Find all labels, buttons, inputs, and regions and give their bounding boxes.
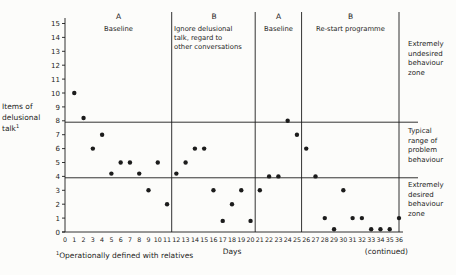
x-tick-label: 31 bbox=[349, 236, 357, 243]
data-point bbox=[91, 146, 95, 150]
data-point bbox=[100, 133, 104, 137]
x-tick-label: 6 bbox=[119, 236, 123, 243]
data-point bbox=[397, 216, 401, 220]
zone-label-line: zone bbox=[408, 210, 456, 220]
behaviour-chart-figure: 0123456789101112131415012345678910111213… bbox=[0, 0, 456, 275]
x-tick-label: 36 bbox=[395, 236, 403, 243]
x-tick-label: 0 bbox=[63, 236, 67, 243]
data-point bbox=[221, 219, 225, 223]
footnote-text: Operationally defined with relatives bbox=[59, 251, 193, 260]
x-tick-label: 28 bbox=[321, 236, 329, 243]
x-tick-label: 18 bbox=[228, 236, 236, 243]
data-point bbox=[369, 227, 373, 231]
data-point bbox=[360, 216, 364, 220]
y-tick-label: 5 bbox=[56, 159, 60, 167]
data-point bbox=[109, 171, 113, 175]
x-tick-label: 20 bbox=[247, 236, 255, 243]
y-tick-label: 10 bbox=[51, 90, 60, 98]
data-point bbox=[248, 219, 252, 223]
x-tick-label: 25 bbox=[293, 236, 301, 243]
data-point bbox=[156, 160, 160, 164]
phase-b1-letter: B bbox=[174, 12, 254, 21]
x-tick-label: 19 bbox=[237, 236, 245, 243]
zone-label-line: desired bbox=[408, 191, 456, 201]
phase-a1-label: Baseline bbox=[66, 25, 171, 34]
data-point bbox=[128, 160, 132, 164]
x-tick-label: 11 bbox=[163, 236, 171, 243]
data-point bbox=[211, 188, 215, 192]
zone-label-line: Typical bbox=[408, 127, 456, 137]
zone-label-undesired: Extremely undesired behaviour zone bbox=[408, 40, 456, 78]
data-point bbox=[183, 160, 187, 164]
y-tick-label: 2 bbox=[56, 201, 60, 209]
data-point bbox=[137, 171, 141, 175]
data-point bbox=[72, 91, 76, 95]
phase-b1-label-line: Ignore delusional bbox=[174, 25, 254, 34]
data-point bbox=[323, 216, 327, 220]
zone-label-line: range of bbox=[408, 137, 456, 147]
x-tick-label: 1 bbox=[72, 236, 76, 243]
x-tick-label: 14 bbox=[191, 236, 199, 243]
zone-label-line: Extremely bbox=[408, 40, 456, 50]
zone-label-typical: Typical range of problem behaviour bbox=[408, 127, 456, 165]
x-tick-label: 16 bbox=[209, 236, 217, 243]
zone-label-line: zone bbox=[408, 69, 456, 79]
x-tick-label: 26 bbox=[302, 236, 310, 243]
x-tick-label: 7 bbox=[128, 236, 132, 243]
y-axis-title-line: talk1 bbox=[2, 123, 54, 134]
data-point bbox=[285, 119, 289, 123]
y-tick-label: 6 bbox=[56, 145, 61, 153]
y-tick-label: 4 bbox=[56, 173, 61, 181]
y-tick-label: 14 bbox=[51, 34, 60, 42]
phase-b2-header: B Re-start programme bbox=[302, 12, 399, 34]
data-point bbox=[378, 227, 382, 231]
data-point bbox=[230, 202, 234, 206]
zone-label-line: undesired bbox=[408, 50, 456, 60]
data-point bbox=[350, 216, 354, 220]
zone-label-line: problem bbox=[408, 146, 456, 156]
data-point bbox=[304, 146, 308, 150]
y-tick-label: 11 bbox=[51, 76, 60, 84]
x-tick-label: 23 bbox=[274, 236, 282, 243]
data-point bbox=[146, 188, 150, 192]
data-point bbox=[267, 174, 271, 178]
data-point bbox=[258, 188, 262, 192]
data-point bbox=[193, 146, 197, 150]
phase-b2-letter: B bbox=[302, 12, 399, 21]
data-point bbox=[174, 171, 178, 175]
x-tick-label: 30 bbox=[339, 236, 347, 243]
y-tick-label: 7 bbox=[56, 131, 60, 139]
footnote: 1Operationally defined with relatives bbox=[56, 251, 193, 260]
y-axis-title-line: Items of bbox=[2, 101, 54, 112]
y-tick-label: 1 bbox=[56, 215, 60, 223]
x-tick-label: 4 bbox=[100, 236, 104, 243]
phase-b1-label-line: other conversations bbox=[174, 43, 254, 52]
continued-note: (continued) bbox=[340, 247, 408, 256]
x-tick-label: 5 bbox=[109, 236, 113, 243]
zone-label-line: behaviour bbox=[408, 59, 456, 69]
y-axis-title-line: delusional bbox=[2, 112, 54, 123]
y-tick-label: 12 bbox=[51, 62, 60, 70]
phase-b1-label-line: talk, regard to bbox=[174, 34, 254, 43]
y-tick-label: 9 bbox=[56, 104, 60, 112]
x-tick-label: 10 bbox=[154, 236, 162, 243]
y-axis-title-superscript: 1 bbox=[16, 123, 19, 129]
data-point bbox=[313, 174, 317, 178]
x-tick-label: 35 bbox=[386, 236, 394, 243]
y-tick-label: 0 bbox=[56, 229, 60, 237]
x-tick-label: 34 bbox=[376, 236, 384, 243]
phase-a1-header: A Baseline bbox=[66, 12, 171, 34]
phase-a2-label: Baseline bbox=[256, 25, 301, 34]
y-tick-label: 15 bbox=[51, 20, 60, 28]
data-point bbox=[276, 174, 280, 178]
y-tick-label: 3 bbox=[56, 187, 60, 195]
x-tick-label: 22 bbox=[265, 236, 273, 243]
data-point bbox=[295, 133, 299, 137]
x-tick-label: 8 bbox=[137, 236, 141, 243]
data-point bbox=[165, 202, 169, 206]
y-tick-label: 13 bbox=[51, 48, 60, 56]
x-tick-label: 13 bbox=[182, 236, 190, 243]
x-tick-label: 2 bbox=[82, 236, 86, 243]
x-tick-label: 24 bbox=[284, 236, 292, 243]
zone-label-desired: Extremely desired behaviour zone bbox=[408, 181, 456, 219]
